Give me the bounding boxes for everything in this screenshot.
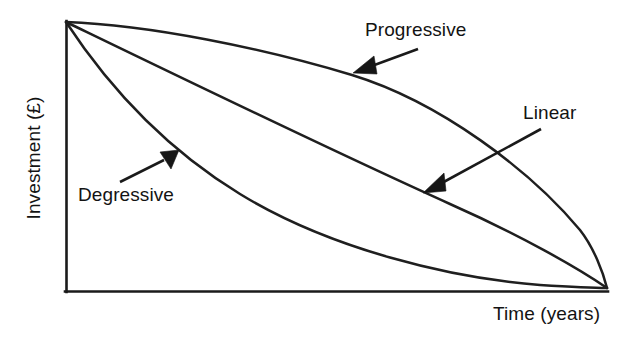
- linear-series-label: Linear: [523, 103, 576, 122]
- curves-group: [66, 22, 607, 288]
- chart-figure: Progressive Linear Degressive Time (year…: [0, 0, 633, 343]
- degressive-leader-line: [120, 160, 164, 182]
- degressive-series-label: Degressive: [78, 185, 174, 204]
- progressive-arrowhead: [353, 56, 377, 74]
- progressive-series-label: Progressive: [365, 20, 466, 39]
- linear-curve: [66, 22, 607, 288]
- progressive-leader-line: [369, 49, 418, 67]
- linear-arrowhead: [423, 173, 446, 193]
- annotation-arrows-group: [120, 49, 541, 193]
- y-axis-label: Investment (£): [24, 38, 43, 278]
- x-axis-label: Time (years): [493, 304, 600, 323]
- chart-canvas: [0, 0, 633, 343]
